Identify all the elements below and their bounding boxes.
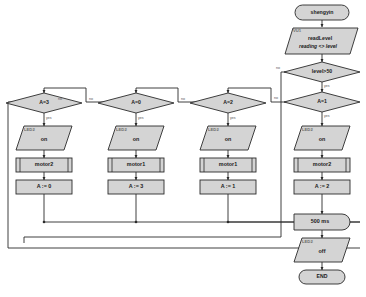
led-col4-shape [294,126,350,150]
assign-col2-shape [108,180,164,194]
led-off-shape [294,238,350,262]
assign-col1-shape [16,180,72,194]
decision-a1-shape [284,92,360,112]
decision-level-shape [284,62,360,82]
led-col1-shape [16,126,72,150]
led-col2-shape [108,126,164,150]
motor-col1-shape [16,158,72,172]
flowchart-canvas: shengyin VU1 readLevel reading <> level … [0,0,366,297]
motor-col2-shape [108,158,164,172]
motor-col4-shape [294,158,350,172]
motor-col3-shape [200,158,256,172]
end-node-shape [299,270,345,284]
node-shapes [6,5,360,284]
assign-col3-shape [200,180,256,194]
read-input-shape [285,28,358,54]
flowchart-shapes [0,0,366,297]
start-node-shape [295,5,349,20]
delay-shape [294,214,350,230]
decision-a3-shape [6,93,82,113]
decision-a2-shape [190,93,266,113]
assign-col4-shape [294,180,350,194]
led-col3-shape [200,126,256,150]
decision-a0-shape [98,93,174,113]
